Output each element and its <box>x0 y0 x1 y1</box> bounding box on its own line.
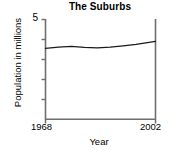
plot-area <box>0 0 179 158</box>
chart-container: The Suburbs Population in millions 5 196… <box>0 0 179 158</box>
data-line-series <box>46 41 156 48</box>
x-axis-label: Year <box>40 136 158 147</box>
x-axis-tick-label-start: 1968 <box>31 121 52 132</box>
x-axis-tick-label-end: 2002 <box>140 121 161 132</box>
